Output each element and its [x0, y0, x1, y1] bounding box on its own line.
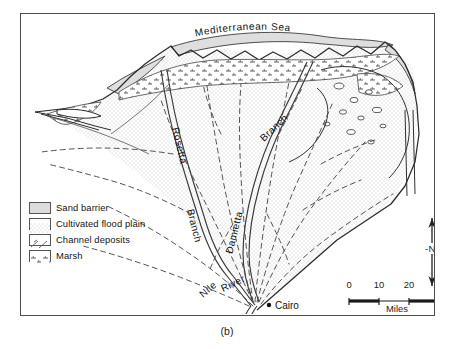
legend-swatch-sand-barrier	[29, 202, 51, 214]
legend-item-marsh: Marsh	[29, 248, 161, 263]
figure-caption: (b)	[0, 325, 454, 337]
legend-swatch-channel-deposits	[29, 234, 51, 246]
legend-label-channel-deposits: Channel deposits	[56, 234, 130, 245]
scale-tick-10: 10	[374, 279, 384, 290]
legend-label-cultivated-flood-plain: Cultivated flood plain	[56, 218, 145, 229]
scale-tick-labels: 0 10 20 30	[341, 279, 435, 292]
legend-item-cultivated-flood-plain: Cultivated flood plain	[29, 216, 161, 231]
scale-tick-0: 0	[346, 279, 351, 290]
scale-bar-graphic	[341, 293, 435, 303]
map-frame: Mediterranean Sea Rosetta Branch Damiett…	[20, 13, 435, 316]
legend-item-channel-deposits: Channel deposits	[29, 232, 161, 247]
scale-tick-20: 20	[404, 279, 414, 290]
legend-swatch-marsh	[29, 250, 51, 262]
cairo-dot	[267, 303, 271, 307]
legend-label-sand-barrier: Sand barrier	[56, 202, 109, 213]
north-arrow: -N-	[419, 216, 435, 288]
figure-panel: Mediterranean Sea Rosetta Branch Damiett…	[0, 0, 454, 349]
scale-bar: 0 10 20 30 Miles	[341, 279, 435, 314]
label-cairo: Cairo	[275, 300, 299, 311]
legend-label-marsh: Marsh	[56, 250, 83, 261]
nile-delta-map: Mediterranean Sea Rosetta Branch Damiett…	[21, 14, 433, 314]
scale-tick-30: 30	[434, 279, 435, 290]
legend-item-sand-barrier: Sand barrier	[29, 200, 161, 215]
legend-swatch-cultivated-flood-plain	[29, 218, 51, 230]
legend: Sand barrier Cultivated flood plain Chan…	[29, 200, 161, 264]
label-nile: Nile	[197, 279, 219, 300]
north-arrow-label: -N-	[419, 243, 435, 254]
